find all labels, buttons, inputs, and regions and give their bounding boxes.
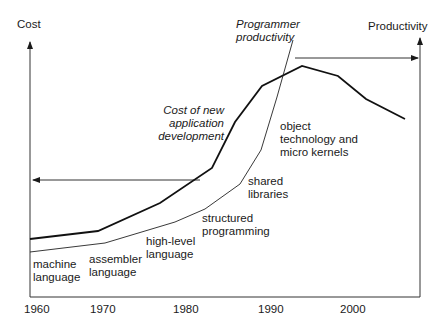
high-level-language-label: high-levellanguage	[146, 235, 195, 261]
cost-axis-label: Cost	[17, 18, 41, 31]
x-tick-1960: 1960	[24, 303, 50, 315]
x-tick-1970: 1970	[90, 303, 116, 315]
productivity-axis-label: Productivity	[368, 20, 427, 33]
assembler-language-label: assemblerlanguage	[89, 253, 142, 279]
x-tick-1990: 1990	[258, 303, 284, 315]
cost-curve-label: Cost of newapplicationdevelopment	[156, 104, 224, 143]
x-tick-2000: 2000	[340, 303, 366, 315]
machine-language-label: machinelanguage	[33, 258, 80, 284]
object-technology-label: objecttechnology andmicro kernels	[280, 120, 358, 159]
x-tick-1980: 1980	[173, 303, 199, 315]
productivity-curve-label: Programmerproductivity	[236, 18, 300, 44]
shared-libraries-label: sharedlibraries	[248, 175, 288, 201]
structured-programming-label: structuredprogramming	[202, 212, 270, 238]
